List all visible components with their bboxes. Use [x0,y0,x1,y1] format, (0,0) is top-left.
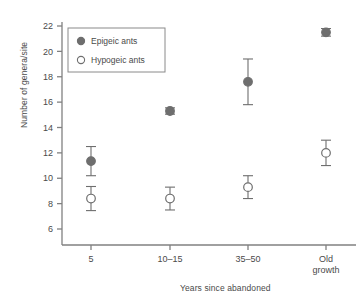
data-point-group [165,187,175,210]
data-point-group [243,59,253,105]
data-marker-open-circle [87,194,96,203]
x-tick-label: 10–15 [157,254,182,264]
data-point-group [165,107,175,116]
y-tick-label: 16 [43,97,53,107]
data-point-group [321,140,331,165]
data-point-group [321,28,331,37]
x-tick-label: Old [319,254,333,264]
x-tick-label: growth [312,265,339,275]
data-point-group [86,147,96,176]
legend-marker-filled-circle [77,37,84,44]
legend-label: Hypogeic ants [91,55,145,65]
data-marker-open-circle [244,183,253,192]
y-tick-label: 18 [43,72,53,82]
data-marker-open-circle [322,149,331,158]
chart-canvas: 6810121416182022510–1535–50OldgrowthEpig… [0,0,360,303]
legend-marker-open-circle [77,56,84,63]
y-tick-label: 8 [48,199,53,209]
data-marker-open-circle [166,194,175,203]
ant-genera-error-bar-chart: 6810121416182022510–1535–50OldgrowthEpig… [0,0,360,303]
legend: Epigeic antsHypogeic ants [68,28,165,72]
x-tick-label: 5 [88,254,93,264]
x-tick-group: 510–1535–50Oldgrowth [88,245,339,275]
y-tick-label: 20 [43,47,53,57]
y-axis-label: Number of genera/site [19,42,29,128]
x-tick-label: 35–50 [235,254,260,264]
legend-label: Epigeic ants [91,36,137,46]
y-tick-label: 6 [48,224,53,234]
x-axis-label: Years since abandoned [180,283,271,293]
data-point-group [243,176,253,199]
y-tick-label: 10 [43,173,53,183]
data-marker-filled-circle [166,107,175,116]
series-hypogeic [86,140,331,210]
y-tick-label: 14 [43,123,53,133]
data-marker-filled-circle [244,78,253,87]
y-tick-label: 22 [43,21,53,31]
data-marker-filled-circle [87,157,96,166]
y-tick-group: 6810121416182022 [43,21,62,234]
legend-box [68,28,165,72]
y-tick-label: 12 [43,148,53,158]
data-point-group [86,186,96,210]
data-marker-filled-circle [322,28,331,37]
